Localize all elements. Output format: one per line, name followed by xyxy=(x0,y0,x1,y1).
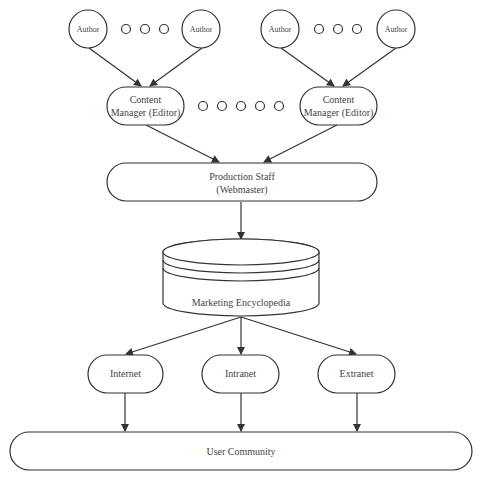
user-community-label: User Community xyxy=(206,446,275,457)
edge-encyclopedia-internet xyxy=(126,317,241,354)
production-label-line1: Production Staff xyxy=(209,171,275,182)
edge-editor-right-production xyxy=(264,125,337,162)
encyclopedia-label: Marketing Encyclopedia xyxy=(192,297,291,308)
user-community-node: User Community xyxy=(10,432,472,470)
editor-label-line1: Content xyxy=(323,94,355,105)
extranet-node: Extranet xyxy=(318,355,395,393)
editor-label-line2: Manager (Editor) xyxy=(111,107,181,119)
editor-label-line1: Content xyxy=(130,94,162,105)
internet-node: Internet xyxy=(88,355,163,393)
extranet-label: Extranet xyxy=(340,368,374,379)
edge-editor-left-production xyxy=(146,125,219,162)
edge-author1-editor-left xyxy=(89,48,141,86)
internet-label: Internet xyxy=(110,368,141,379)
ellipsis-dots-editors xyxy=(199,102,284,111)
author-node-3: Author xyxy=(261,10,299,48)
diagram-canvas: Author Author Author Author Content Mana… xyxy=(0,0,481,484)
author-node-2: Author xyxy=(182,10,220,48)
production-label-line2: (Webmaster) xyxy=(216,184,267,196)
author-label: Author xyxy=(190,25,213,34)
editor-node-left: Content Manager (Editor) xyxy=(107,87,184,125)
production-node: Production Staff (Webmaster) xyxy=(107,163,377,201)
edge-author3-editor-right xyxy=(281,48,334,86)
editor-node-right: Content Manager (Editor) xyxy=(300,87,377,125)
edge-encyclopedia-extranet xyxy=(241,317,356,354)
intranet-label: Intranet xyxy=(225,368,256,379)
editor-label-line2: Manager (Editor) xyxy=(304,107,374,119)
ellipsis-dots-left-authors xyxy=(122,25,169,34)
ellipsis-dots-right-authors xyxy=(315,25,362,34)
author-label: Author xyxy=(385,25,408,34)
edge-author2-editor-left xyxy=(150,48,202,86)
author-label: Author xyxy=(269,25,292,34)
encyclopedia-database-node: Marketing Encyclopedia xyxy=(163,239,319,316)
author-label: Author xyxy=(77,25,100,34)
author-node-4: Author xyxy=(377,10,415,48)
intranet-node: Intranet xyxy=(202,355,279,393)
edge-author4-editor-right xyxy=(343,48,396,86)
author-node-1: Author xyxy=(69,10,107,48)
